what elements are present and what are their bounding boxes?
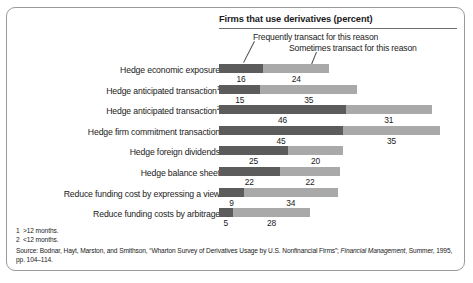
- category-label: Hedge economic exposure: [120, 65, 220, 75]
- bar-value-sometimes: 34: [279, 198, 303, 208]
- category-label: Hedge anticipated transaction1: [106, 86, 220, 96]
- bar-segment-frequently: [219, 167, 280, 176]
- source-journal: Financial Management: [341, 247, 406, 254]
- footnotes-block: 1>12 months. 2<12 months. Source: Bodnar…: [16, 226, 460, 264]
- bar-segment-frequently: [219, 105, 346, 114]
- stacked-bar: [219, 208, 310, 217]
- footnote-2-text: <12 months.: [23, 236, 58, 243]
- footnote-1: 1>12 months.: [16, 226, 460, 235]
- bar-value-sometimes: 35: [380, 136, 404, 146]
- bar-segment-sometimes: [346, 105, 432, 114]
- footnote-2: 2<12 months.: [16, 235, 460, 244]
- bar-value-frequently: 15: [228, 95, 252, 105]
- category-label: Hedge anticipated transaction2: [106, 106, 220, 116]
- source-citation: Source: Bodnar, Hayt, Marston, and Smith…: [16, 246, 460, 264]
- bar-value-sometimes: 20: [304, 156, 328, 166]
- category-label: Hedge balance sheet: [141, 168, 220, 178]
- bar-segment-sometimes: [280, 167, 341, 176]
- bar-segment-sometimes: [343, 126, 440, 135]
- bar-segment-sometimes: [233, 208, 310, 217]
- bar-segment-frequently: [219, 85, 260, 94]
- bar-segment-frequently: [219, 188, 244, 197]
- category-label: Reduce funding costs by arbitrage: [93, 209, 220, 219]
- source-lead: Source: Bodnar, Hayt, Marston, and Smith…: [16, 247, 341, 254]
- stacked-bar: [219, 146, 343, 155]
- stacked-bar: [219, 188, 338, 197]
- stacked-bar: [219, 64, 329, 73]
- bar-segment-sometimes: [263, 64, 329, 73]
- figure-panel: Firms that use derivatives (percent) Fre…: [6, 7, 465, 271]
- category-label: Hedge firm commitment transaction: [88, 127, 220, 137]
- footnote-1-text: >12 months.: [23, 227, 58, 234]
- bar-segment-frequently: [219, 208, 233, 217]
- stacked-bar: [219, 105, 432, 114]
- bar-segment-sometimes: [244, 188, 338, 197]
- bar-value-frequently: 45: [269, 136, 293, 146]
- footnote-1-marker: 1: [16, 226, 23, 235]
- bar-segment-sometimes: [260, 85, 357, 94]
- bar-value-sometimes: 35: [297, 95, 321, 105]
- stacked-bar: [219, 126, 440, 135]
- category-label: Reduce funding cost by expressing a view: [64, 189, 220, 199]
- footnote-2-marker: 2: [16, 235, 23, 244]
- bar-value-sometimes: 24: [284, 74, 308, 84]
- bar-value-frequently: 25: [242, 156, 266, 166]
- category-label: Hedge foreign dividends: [130, 147, 220, 157]
- bar-segment-frequently: [219, 146, 288, 155]
- stacked-bar: [219, 85, 357, 94]
- bar-segment-frequently: [219, 126, 343, 135]
- stacked-bar: [219, 167, 340, 176]
- bar-value-sometimes: 31: [377, 115, 401, 125]
- bar-value-frequently: 9: [219, 198, 243, 208]
- bar-segment-frequently: [219, 64, 263, 73]
- bar-value-frequently: 46: [270, 115, 294, 125]
- bar-value-frequently: 16: [229, 74, 253, 84]
- bar-value-frequently: 22: [237, 177, 261, 187]
- bar-value-sometimes: 22: [298, 177, 322, 187]
- bar-segment-sometimes: [288, 146, 343, 155]
